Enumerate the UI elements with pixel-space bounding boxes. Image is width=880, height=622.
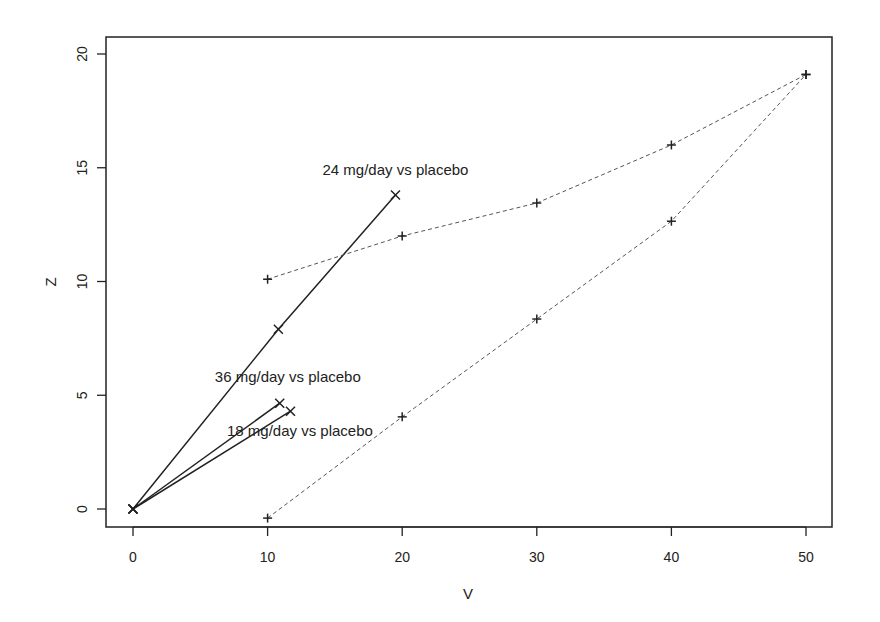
series-0	[129, 191, 400, 514]
x-marker-icon	[129, 505, 138, 514]
x-marker-icon	[275, 399, 284, 408]
plus-marker-icon	[532, 199, 541, 208]
annotations-layer: 24 mg/day vs placebo36 mg/day vs placebo…	[215, 161, 469, 440]
y-tick-label: 0	[74, 505, 90, 513]
annotation-label: 24 mg/day vs placebo	[323, 161, 469, 178]
plus-marker-icon	[398, 232, 407, 241]
y-tick-label: 5	[74, 391, 90, 399]
plus-marker-icon	[263, 514, 272, 523]
dashed-boundary-line	[268, 74, 806, 518]
x-tick-label: 40	[664, 549, 680, 565]
plus-marker-icon	[398, 412, 407, 421]
x-axis: 01020304050	[129, 527, 814, 565]
x-tick-label: 30	[529, 549, 545, 565]
plus-marker-icon	[532, 315, 541, 324]
y-tick-label: 20	[74, 46, 90, 62]
solid-path-line	[133, 195, 395, 509]
series-4	[263, 70, 810, 523]
x-tick-label: 50	[798, 549, 814, 565]
plus-marker-icon	[263, 275, 272, 284]
plus-marker-icon	[667, 141, 676, 150]
series-1	[129, 399, 285, 514]
y-axis-label: Z	[42, 277, 59, 286]
annotation-label: 36 mg/day vs placebo	[215, 368, 361, 385]
series-layer	[129, 70, 811, 523]
x-tick-label: 20	[394, 549, 410, 565]
x-tick-label: 0	[129, 549, 137, 565]
annotation-label: 18 mg/day vs placebo	[227, 422, 373, 439]
x-tick-label: 10	[260, 549, 276, 565]
x-marker-icon	[274, 325, 283, 334]
chart: 01020304050 05101520 24 mg/day vs placeb…	[0, 0, 880, 622]
y-tick-label: 15	[74, 160, 90, 176]
plot-frame	[106, 37, 832, 527]
y-axis: 05101520	[74, 46, 106, 513]
x-axis-label: V	[463, 585, 473, 602]
x-marker-icon	[286, 407, 295, 416]
x-marker-icon	[391, 191, 400, 200]
y-tick-label: 10	[74, 274, 90, 290]
